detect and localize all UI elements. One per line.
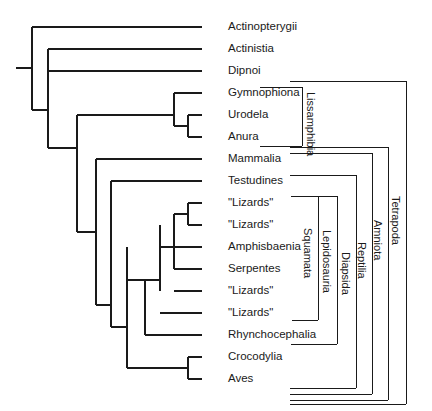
clade-label-tetrapoda-bracket: Tetrapoda (390, 196, 401, 245)
tip-label-dipnoi: Dipnoi (228, 65, 261, 77)
tip-label-actinistia: Actinistia (228, 43, 274, 55)
clade-label-squamata-bracket: Squamata (302, 228, 313, 278)
cladogram-lines (0, 0, 432, 411)
tip-label-rhynchocephalia: Rhynchocephalia (228, 329, 316, 341)
tip-label-urodela: Urodela (228, 109, 268, 121)
tip-label-amphisbaenia: Amphisbaenia (228, 241, 301, 253)
tip-label-lizards-3: "Lizards" (228, 285, 273, 297)
tip-label-gymnophiona: Gymnophiona (228, 87, 300, 99)
phylogenetic-tree-figure: ActinopterygiiActinistiaDipnoiGymnophion… (0, 0, 432, 411)
tip-label-crocodylia: Crocodylia (228, 351, 282, 363)
clade-label-lepidosauria-bracket: Lepidosauria (321, 230, 332, 293)
clade-label-amniota-bracket: Amniota (372, 220, 383, 260)
tip-label-lizards-4: "Lizards" (228, 307, 273, 319)
tip-label-actinopterygii: Actinopterygii (228, 21, 297, 33)
tip-label-aves: Aves (228, 373, 253, 385)
tip-label-anura: Anura (228, 131, 259, 143)
tip-label-mammalia: Mammalia (228, 153, 281, 165)
clade-label-reptilia-bracket: Reptilia (356, 242, 367, 279)
clade-label-lissamphibia-bracket: Lissamphibia (305, 92, 316, 156)
clade-label-diapsida-bracket: Diapsida (340, 252, 351, 295)
tip-label-lizards-1: "Lizards" (228, 197, 273, 209)
tip-label-testudines: Testudines (228, 175, 283, 187)
tip-label-serpentes: Serpentes (228, 263, 280, 275)
tip-label-lizards-2: "Lizards" (228, 219, 273, 231)
